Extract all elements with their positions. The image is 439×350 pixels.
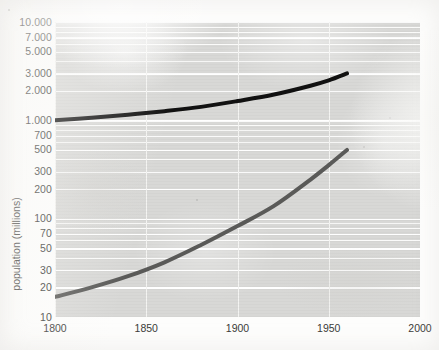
x-tick-label: 1850 bbox=[135, 322, 158, 334]
chart-figure: 10.0007.0005.0003.0002.0001.000700500300… bbox=[0, 0, 439, 350]
upper-curve-path bbox=[55, 73, 347, 120]
y-tick-label: 70 bbox=[0, 228, 52, 239]
y-tick-label: 100 bbox=[0, 213, 52, 224]
x-tick-label: 1900 bbox=[226, 322, 249, 334]
y-tick-label: 300 bbox=[0, 166, 52, 177]
y-axis-title: population (millions) bbox=[10, 184, 22, 304]
y-tick-label: 2.000 bbox=[0, 85, 52, 96]
y-tick-label: 5.000 bbox=[0, 46, 52, 57]
plot-area bbox=[55, 22, 420, 317]
series-curves bbox=[55, 22, 420, 317]
x-tick-label: 1800 bbox=[43, 322, 66, 334]
y-tick-label: 10 bbox=[0, 312, 52, 323]
y-tick-label: 700 bbox=[0, 130, 52, 141]
y-tick-label: 30 bbox=[0, 265, 52, 276]
x-tick-label: 1950 bbox=[317, 322, 340, 334]
y-axis-tick-labels: 10.0007.0005.0003.0002.0001.000700500300… bbox=[0, 0, 52, 350]
y-tick-label: 3.000 bbox=[0, 68, 52, 79]
y-tick-label: 500 bbox=[0, 144, 52, 155]
x-tick-label: 2000 bbox=[408, 322, 431, 334]
lower-curve-path bbox=[55, 150, 347, 297]
y-tick-label: 50 bbox=[0, 243, 52, 254]
y-tick-label: 10.000 bbox=[0, 17, 52, 28]
y-tick-label: 20 bbox=[0, 282, 52, 293]
y-tick-label: 200 bbox=[0, 184, 52, 195]
y-tick-label: 1.000 bbox=[0, 115, 52, 126]
y-tick-label: 7.000 bbox=[0, 32, 52, 43]
